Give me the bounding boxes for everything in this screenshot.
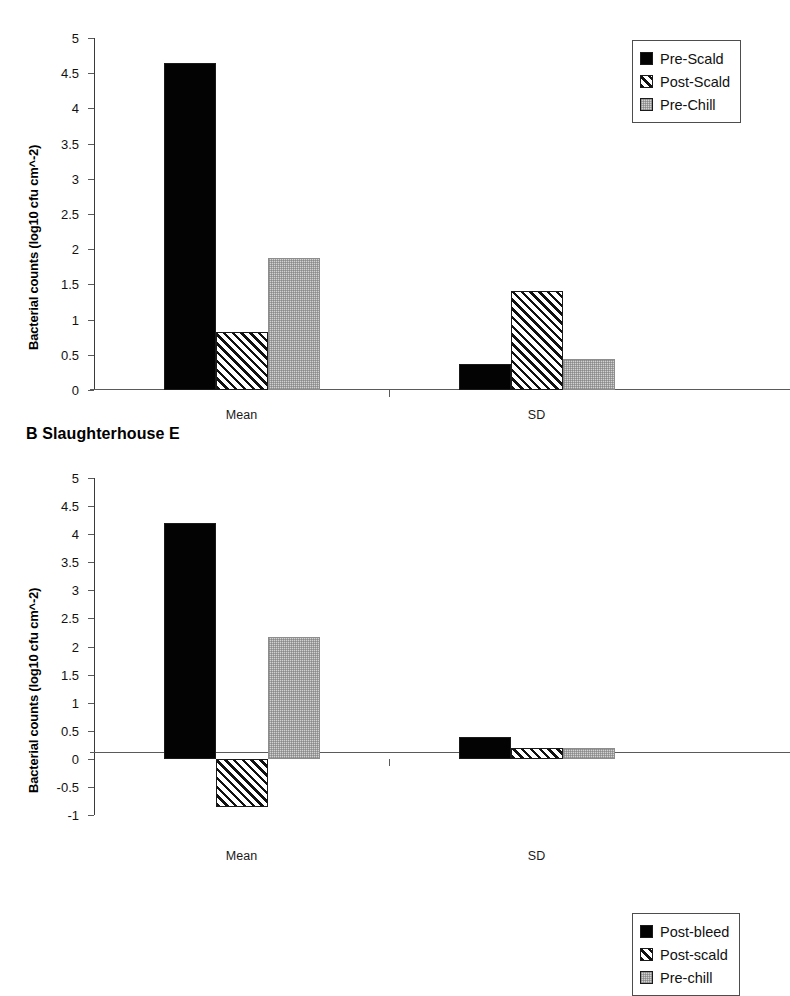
y-tick-label: 5 xyxy=(72,31,79,46)
category-tick xyxy=(389,759,390,766)
y-tick-label: 0.5 xyxy=(61,723,79,738)
y-axis-label-a: Bacterial counts (log10 cfu cm^-2) xyxy=(26,145,41,350)
legend-b: Post-bleedPost-scaldPre-chill xyxy=(632,913,740,996)
legend-swatch-icon xyxy=(640,75,653,88)
y-tick-label: 0.5 xyxy=(61,347,79,362)
y-tick: 4 xyxy=(88,534,94,535)
y-tick: 1.5 xyxy=(88,675,94,676)
y-tick: 4.5 xyxy=(88,506,94,507)
bar xyxy=(164,63,216,390)
legend-item: Post-bleed xyxy=(640,920,729,943)
legend-item: Pre-Scald xyxy=(640,47,730,70)
y-tick: 3.5 xyxy=(88,144,94,145)
y-tick: 3.5 xyxy=(88,562,94,563)
y-tick: 5 xyxy=(88,38,94,39)
y-tick-label: 4 xyxy=(72,527,79,542)
y-tick-label: -1 xyxy=(67,808,79,823)
legend-swatch-icon xyxy=(640,925,653,938)
plot-area-b: 54.543.532.521.510.50-0.5-1 MeanSD xyxy=(94,478,684,815)
bar xyxy=(511,291,563,390)
legend-item: Post-scald xyxy=(640,943,729,966)
bar xyxy=(511,748,563,759)
y-tick-label: 1.5 xyxy=(61,667,79,682)
chart-panel-b: B Slaughterhouse E Bacterial counts (log… xyxy=(0,415,787,873)
y-tick-label: 0 xyxy=(72,751,79,766)
y-tick-label: 0 xyxy=(72,383,79,398)
y-tick: 2.5 xyxy=(88,618,94,619)
y-tick-label: -0.5 xyxy=(57,779,79,794)
y-tick: 1 xyxy=(88,320,94,321)
panel-title-b: B Slaughterhouse E xyxy=(26,425,180,443)
y-tick-label: 4.5 xyxy=(61,66,79,81)
bar xyxy=(216,759,268,807)
y-tick: 0.5 xyxy=(88,731,94,732)
y-tick-label: 3 xyxy=(72,583,79,598)
y-tick-label: 3.5 xyxy=(61,555,79,570)
y-tick: 2 xyxy=(88,647,94,648)
y-tick: 0 xyxy=(88,759,94,760)
y-tick: 0 xyxy=(88,390,94,391)
legend-label: Pre-chill xyxy=(660,970,712,986)
y-tick: 1 xyxy=(88,703,94,704)
bar xyxy=(164,523,216,759)
bar xyxy=(459,737,511,758)
y-tick-label: 1 xyxy=(72,312,79,327)
legend-label: Post-bleed xyxy=(660,924,729,940)
y-tick: 0.5 xyxy=(88,355,94,356)
y-tick: 4.5 xyxy=(88,73,94,74)
y-tick: -1 xyxy=(88,815,94,816)
category-label: Mean xyxy=(226,849,257,863)
legend-item: Post-Scald xyxy=(640,70,730,93)
y-tick: 5 xyxy=(88,478,94,479)
legend-label: Pre-Chill xyxy=(660,97,716,113)
legend-label: Post-Scald xyxy=(660,74,730,90)
y-axis-label-b: Bacterial counts (log10 cfu cm^-2) xyxy=(26,588,41,793)
y-tick-label: 5 xyxy=(72,471,79,486)
y-tick-label: 3 xyxy=(72,171,79,186)
legend-swatch-icon xyxy=(640,52,653,65)
bar xyxy=(563,359,615,390)
plot-area-a: 54.543.532.521.510.50 MeanSD xyxy=(94,38,684,390)
bar xyxy=(268,637,320,759)
legend-item: Pre-chill xyxy=(640,966,729,989)
y-tick-label: 1.5 xyxy=(61,277,79,292)
y-tick: -0.5 xyxy=(88,787,94,788)
bar xyxy=(268,258,320,390)
legend-label: Pre-Scald xyxy=(660,51,724,67)
y-tick-label: 2.5 xyxy=(61,207,79,222)
y-tick-label: 4 xyxy=(72,101,79,116)
category-tick xyxy=(389,390,390,397)
legend-label: Post-scald xyxy=(660,947,728,963)
y-tick: 2.5 xyxy=(88,214,94,215)
bar xyxy=(216,332,268,390)
y-tick-label: 3.5 xyxy=(61,136,79,151)
bar xyxy=(459,364,511,390)
y-tick-label: 2.5 xyxy=(61,611,79,626)
y-tick-label: 2 xyxy=(72,242,79,257)
y-tick: 4 xyxy=(88,108,94,109)
y-tick: 1.5 xyxy=(88,284,94,285)
y-tick-label: 1 xyxy=(72,695,79,710)
bar xyxy=(563,748,615,759)
y-axis-line-b xyxy=(94,478,95,815)
y-axis-line-a xyxy=(94,38,95,390)
y-tick: 3 xyxy=(88,590,94,591)
chart-panel-a: Bacterial counts (log10 cfu cm^-2) 54.54… xyxy=(0,0,787,420)
y-tick: 3 xyxy=(88,179,94,180)
legend-swatch-icon xyxy=(640,971,653,984)
legend-a: Pre-ScaldPost-ScaldPre-Chill xyxy=(632,40,741,123)
y-tick: 2 xyxy=(88,249,94,250)
y-tick-label: 2 xyxy=(72,639,79,654)
y-tick-label: 4.5 xyxy=(61,499,79,514)
legend-item: Pre-Chill xyxy=(640,93,730,116)
legend-swatch-icon xyxy=(640,98,653,111)
legend-swatch-icon xyxy=(640,948,653,961)
category-label: SD xyxy=(528,849,545,863)
